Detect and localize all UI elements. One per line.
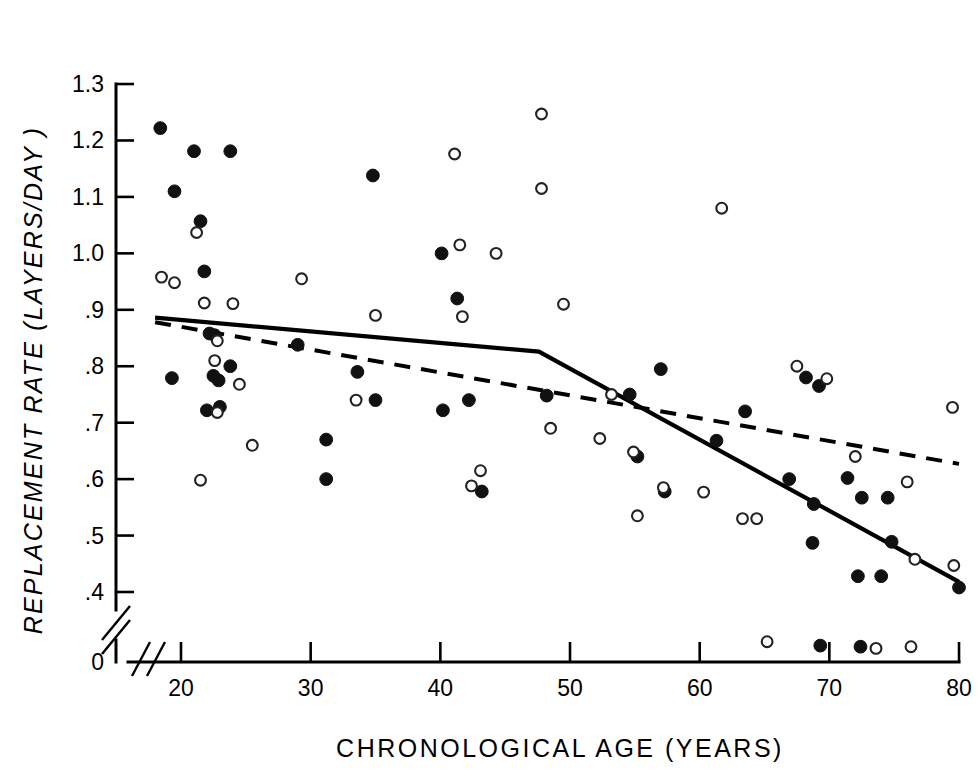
data-point-open: [906, 641, 917, 652]
x-axis-break-slash: [147, 642, 165, 676]
data-point-filled: [814, 639, 827, 652]
data-point-filled: [654, 363, 667, 376]
data-point-open: [454, 240, 465, 251]
y-axis-tick-label: .5: [85, 523, 104, 549]
y-axis-tick-label: .9: [85, 297, 104, 323]
scatter-plot-figure: 1.31.21.11.0.9.8.7.6.5.4020304050607080R…: [0, 0, 980, 774]
x-axis-tick-label: 20: [168, 675, 194, 701]
x-axis-tick-label: 40: [428, 675, 454, 701]
y-axis-zero-label: 0: [91, 649, 104, 675]
y-axis-tick-label: 1.1: [72, 184, 104, 210]
data-point-filled: [224, 360, 237, 373]
data-point-filled: [841, 472, 854, 485]
dashed-linear-fit: [155, 322, 959, 464]
y-axis-tick-label: .4: [85, 579, 104, 605]
data-point-open: [212, 335, 223, 346]
data-point-open: [212, 407, 223, 418]
y-axis-tick-label: 1.0: [72, 240, 104, 266]
data-point-filled: [320, 473, 333, 486]
data-point-open: [195, 475, 206, 486]
data-point-open: [296, 273, 307, 284]
x-axis-title: CHRONOLOGICAL AGE (YEARS): [336, 734, 784, 762]
data-points-group: [154, 109, 965, 654]
y-axis-tick-label: .6: [85, 466, 104, 492]
data-point-filled: [194, 215, 207, 228]
y-axis-tick-label: 1.2: [72, 127, 104, 153]
data-point-open: [351, 395, 362, 406]
data-point-filled: [451, 292, 464, 305]
fit-lines-group: [155, 318, 959, 582]
y-axis-tick-label: .8: [85, 353, 104, 379]
data-point-open: [536, 109, 547, 120]
y-axis-tick-label: .7: [85, 410, 104, 436]
data-point-filled: [852, 570, 865, 583]
data-point-open: [558, 299, 569, 310]
data-point-filled: [540, 389, 553, 402]
data-point-open: [632, 510, 643, 521]
data-point-filled: [291, 338, 304, 351]
y-axis-title: REPLACEMENT RATE (LAYERS/DAY ): [19, 126, 47, 635]
data-point-filled: [437, 404, 450, 417]
data-point-open: [947, 402, 958, 413]
data-point-filled: [885, 535, 898, 548]
data-point-open: [751, 513, 762, 524]
x-axis-break-slash: [132, 642, 150, 676]
x-axis-tick-label: 60: [687, 675, 713, 701]
data-point-filled: [463, 394, 476, 407]
data-point-open: [698, 487, 709, 498]
data-point-filled: [854, 640, 867, 653]
data-point-open: [199, 298, 210, 309]
data-point-open: [606, 389, 617, 400]
solid-segmented-fit: [155, 318, 959, 582]
x-axis-tick-label: 80: [946, 675, 972, 701]
data-point-open: [234, 379, 245, 390]
data-point-filled: [198, 265, 211, 278]
data-point-open: [658, 482, 669, 493]
data-point-open: [716, 203, 727, 214]
data-point-filled: [351, 366, 364, 379]
data-point-open: [536, 183, 547, 194]
data-point-open: [792, 361, 803, 372]
data-point-open: [910, 554, 921, 565]
data-point-filled: [166, 372, 179, 385]
data-point-filled: [188, 145, 201, 158]
data-point-open: [821, 373, 832, 384]
data-point-open: [370, 310, 381, 321]
data-point-filled: [739, 405, 752, 418]
x-axis-tick-label: 30: [298, 675, 324, 701]
data-point-filled: [224, 145, 237, 158]
y-axis-tick-label: 1.3: [72, 71, 104, 97]
data-point-open: [628, 447, 639, 458]
data-point-open: [491, 248, 502, 259]
data-point-filled: [806, 537, 819, 550]
data-point-open: [948, 560, 959, 571]
data-point-open: [209, 355, 220, 366]
data-point-filled: [881, 491, 894, 504]
data-point-open: [902, 477, 913, 488]
data-point-open: [457, 311, 468, 322]
x-axis-tick-label: 70: [817, 675, 843, 701]
data-point-open: [191, 227, 202, 238]
data-point-filled: [154, 122, 167, 135]
data-point-filled: [807, 498, 820, 511]
data-point-filled: [367, 169, 380, 182]
data-point-open: [850, 451, 861, 462]
data-point-open: [762, 636, 773, 647]
data-point-open: [247, 440, 258, 451]
data-point-filled: [953, 581, 966, 594]
data-point-open: [737, 513, 748, 524]
data-point-filled: [212, 374, 225, 387]
data-point-filled: [623, 388, 636, 401]
x-axis-tick-label: 50: [557, 675, 583, 701]
data-point-filled: [800, 371, 813, 384]
data-point-filled: [435, 247, 448, 260]
plot-canvas: 1.31.21.11.0.9.8.7.6.5.4020304050607080R…: [0, 0, 980, 774]
data-point-open: [594, 433, 605, 444]
data-point-open: [871, 643, 882, 654]
data-point-open: [228, 298, 239, 309]
data-point-open: [449, 149, 460, 160]
data-point-filled: [168, 185, 181, 198]
data-point-filled: [875, 570, 888, 583]
data-point-filled: [855, 491, 868, 504]
data-point-open: [169, 277, 180, 288]
